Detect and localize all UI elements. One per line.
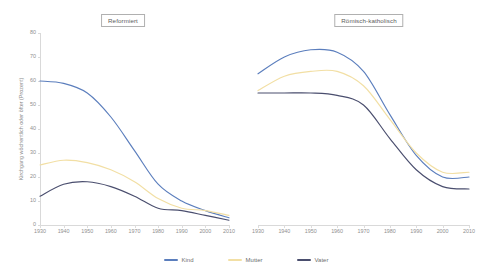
x-tick-label: 2010 xyxy=(223,229,235,234)
y-tick-label: 70 xyxy=(10,54,36,59)
legend-swatch-icon-vater xyxy=(297,259,311,261)
legend-item-mutter[interactable]: Mutter xyxy=(228,257,263,263)
x-tick-mark xyxy=(469,225,470,228)
x-tick-label: 1990 xyxy=(410,229,422,234)
legend-label-mutter: Mutter xyxy=(246,257,263,263)
series-lines-roemisch-katholisch xyxy=(258,33,469,226)
x-tick-label: 1990 xyxy=(176,229,188,234)
chart-canvas: Reformiert Kirchgang wöchentlich oder öf… xyxy=(0,0,492,274)
y-tick-label: 0 xyxy=(10,222,36,227)
legend-swatch-icon-kind xyxy=(164,259,178,261)
x-tick-label: 1980 xyxy=(152,229,164,234)
series-line-kind xyxy=(40,81,229,218)
legend-swatch-icon-mutter xyxy=(228,259,242,261)
y-tick-label: 40 xyxy=(10,126,36,131)
y-tick-label: 10 xyxy=(10,198,36,203)
y-tick-label: 50 xyxy=(10,102,36,107)
legend-item-kind[interactable]: Kind xyxy=(164,257,194,263)
x-tick-mark xyxy=(229,225,230,228)
x-tick-label: 1930 xyxy=(252,229,264,234)
x-tick-label: 2000 xyxy=(437,229,449,234)
x-tick-label: 1950 xyxy=(305,229,317,234)
x-tick-label: 2010 xyxy=(463,229,475,234)
panel-title-roemisch-katholisch: Römisch-katholisch xyxy=(334,14,403,27)
legend-item-vater[interactable]: Vater xyxy=(297,257,329,263)
y-tick-label: 30 xyxy=(10,150,36,155)
y-tick-label: 80 xyxy=(10,30,36,35)
series-line-vater xyxy=(40,182,229,221)
x-tick-label: 1970 xyxy=(358,229,370,234)
x-tick-label: 1980 xyxy=(384,229,396,234)
x-tick-label: 1970 xyxy=(129,229,141,234)
x-tick-label: 1930 xyxy=(34,229,46,234)
series-line-kind xyxy=(258,49,469,178)
series-line-mutter xyxy=(40,160,229,215)
x-tick-label: 1960 xyxy=(331,229,343,234)
series-lines-reformiert xyxy=(40,33,229,226)
y-tick-label: 20 xyxy=(10,174,36,179)
legend-label-vater: Vater xyxy=(315,257,329,263)
x-tick-label: 1940 xyxy=(58,229,70,234)
x-tick-label: 1960 xyxy=(105,229,117,234)
legend-label-kind: Kind xyxy=(182,257,194,263)
x-tick-label: 2000 xyxy=(199,229,211,234)
chart-legend: Kind Mutter Vater xyxy=(0,252,492,268)
y-tick-label: 60 xyxy=(10,78,36,83)
panel-title-reformiert: Reformiert xyxy=(101,14,145,27)
x-tick-label: 1950 xyxy=(81,229,93,234)
series-line-mutter xyxy=(258,70,469,173)
x-tick-label: 1940 xyxy=(278,229,290,234)
